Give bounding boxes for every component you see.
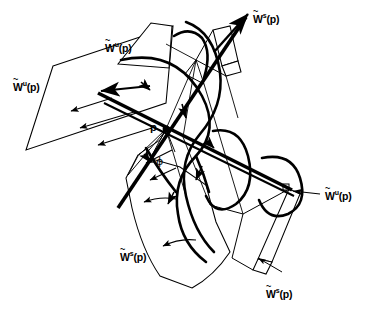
label-unstable-top: ~ Wu(p): [105, 41, 132, 53]
diagram-svg: [0, 0, 366, 310]
tilde-accent-stable-top-right: ~: [253, 7, 258, 16]
unstable-ribbon-tip: [253, 259, 272, 274]
tilde-accent-stable-bottom-left: ~: [120, 245, 125, 254]
label-unstable-top-arg: (p): [119, 42, 132, 54]
tilde-accent-unstable-right: ~: [325, 184, 330, 193]
tilde-accent-unstable-left: ~: [13, 75, 18, 84]
label-unstable-right-arg: (p): [339, 190, 352, 202]
label-stable-bottom-right: ~ Ws(p): [266, 287, 292, 299]
label-unstable-left-arg: (p): [27, 81, 40, 93]
unstable-ribbon-face: [258, 189, 300, 262]
label-stable-top-right-arg: (p): [266, 13, 279, 25]
spiral-loop-3: [206, 130, 250, 209]
figure-canvas: ~ Wu(p) ~ Wu(p) ~ Wu(p) ~ Ws(p) ~ Ws(p) …: [0, 0, 366, 310]
cone-line-8: [226, 76, 238, 118]
label-stable-bottom-left: ~ Ws(p): [120, 250, 146, 262]
label-unstable-right: ~ Wu(p): [325, 189, 352, 201]
tilde-accent-unstable-top: ~: [105, 36, 110, 45]
cone-line-2: [183, 60, 196, 137]
label-angle-phi: ϕ: [156, 156, 163, 167]
tilde-accent-stable-bottom-right: ~: [266, 282, 271, 291]
label-stable-bottom-left-arg: (p): [133, 251, 146, 263]
label-stable-bottom-right-arg: (p): [279, 288, 292, 300]
label-fixed-point-p: p: [150, 122, 157, 133]
label-stable-top-right: ~ Ws(p): [253, 12, 279, 24]
label-unstable-left: ~ Wu(p): [13, 80, 40, 92]
